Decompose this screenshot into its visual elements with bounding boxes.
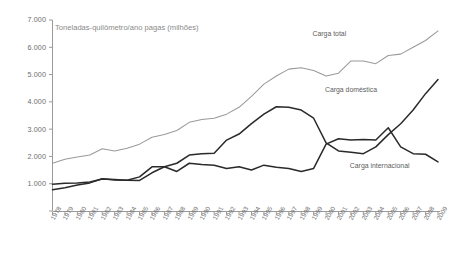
y-axis-tick-label: 4.000 [6,98,46,105]
series-annotation-label: Carga doméstica [325,87,377,94]
chart-axes [49,20,440,216]
y-axis-tick-label: 7.000 [6,16,46,23]
chart-axis-title: Toneladas-quilômetro/ano pagas (milhões) [55,24,199,32]
y-axis-ticks [49,20,53,211]
series-line-2 [53,79,439,189]
series-annotation-label: Carga total [313,31,347,38]
y-axis-tick-label: 5.000 [6,71,46,78]
y-axis-tick-label: 2.000 [6,153,46,160]
y-axis-tick-label: 1.000 [6,180,46,187]
y-axis-tick-label: 3.000 [6,126,46,133]
y-axis-tick-label: 6.000 [6,44,46,51]
chart-container: 7.0006.0005.0004.0003.0002.0001.000 1978… [0,0,452,270]
series-line-1 [53,128,439,184]
series-annotation-label: Carga internacional [350,163,410,170]
line-chart-plot [0,0,452,270]
